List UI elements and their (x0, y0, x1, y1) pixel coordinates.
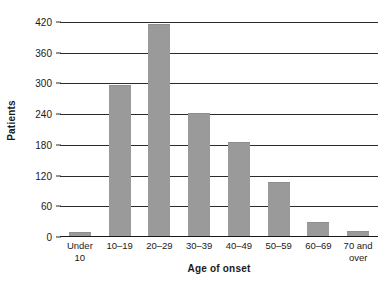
y-axis-tick-mark (56, 83, 61, 84)
y-axis-tick-label: 300 (35, 78, 52, 89)
bar (347, 231, 369, 236)
x-axis-tick-label: 70 andover (344, 240, 373, 263)
y-axis-tick-label: 180 (35, 139, 52, 150)
y-axis-tick-mark (56, 144, 61, 145)
x-axis-tick-label: Under10 (67, 240, 93, 263)
bar-chart-figure: Patients 060120180240300360420 Under1010… (0, 0, 385, 282)
x-axis-tick-label: 40–49 (226, 240, 252, 252)
gridline (60, 53, 378, 54)
bar (69, 232, 91, 236)
y-axis-tick-labels: 060120180240300360420 (18, 22, 56, 237)
x-axis-tick-label: 30–39 (186, 240, 212, 252)
plot-area (60, 22, 378, 237)
x-axis-tick-label: 10–19 (106, 240, 132, 252)
y-axis-tick-label: 120 (35, 170, 52, 181)
y-axis-tick-mark (56, 206, 61, 207)
y-axis-tick-label: 60 (41, 201, 52, 212)
x-axis-tick-label: 50–59 (265, 240, 291, 252)
x-axis-tick-label-line: 20–29 (146, 240, 172, 252)
y-axis-tick-label: 0 (46, 232, 52, 243)
x-axis-tick-label-line: 50–59 (265, 240, 291, 252)
x-axis-tick-label-line: Under (67, 240, 93, 252)
x-axis-title: Age of onset (60, 263, 378, 274)
x-axis-tick-label-line: 30–39 (186, 240, 212, 252)
y-axis-tick-label: 240 (35, 109, 52, 120)
gridline (60, 22, 378, 23)
x-axis-tick-label-line: 70 and (344, 240, 373, 252)
y-axis-tick-mark (56, 114, 61, 115)
y-axis-tick-mark (56, 52, 61, 53)
bar (228, 142, 250, 236)
bar (307, 222, 329, 236)
bar (188, 113, 210, 236)
bar (268, 182, 290, 236)
bar (109, 85, 131, 236)
x-axis-tick-label-line: 10–19 (106, 240, 132, 252)
y-axis-tick-mark (56, 22, 61, 23)
x-axis-tick-label-line: over (344, 252, 373, 264)
y-axis-tick-mark (56, 175, 61, 176)
x-axis-tick-label: 20–29 (146, 240, 172, 252)
y-axis-tick-label: 360 (35, 47, 52, 58)
x-axis-tick-label-line: 40–49 (226, 240, 252, 252)
y-axis-tick-mark (56, 237, 61, 238)
x-axis-tick-label: 60–69 (305, 240, 331, 252)
x-axis-tick-label-line: 60–69 (305, 240, 331, 252)
bar (148, 24, 170, 236)
y-axis-tick-label: 420 (35, 17, 52, 28)
x-axis-tick-label-line: 10 (67, 252, 93, 264)
y-axis-title-text: Patients (6, 100, 17, 141)
